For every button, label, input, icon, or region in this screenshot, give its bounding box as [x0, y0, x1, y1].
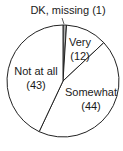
pie-chart: DK, missing (1) Very (12) Somewhat (44) …	[0, 0, 123, 151]
label-very: Very	[69, 36, 92, 48]
label-dk-missing: DK, missing (1)	[30, 4, 105, 16]
dk-leader-line	[62, 18, 64, 24]
pie-slices	[7, 25, 119, 137]
label-very-value: (12)	[70, 50, 90, 62]
label-somewhat: Somewhat	[65, 86, 117, 98]
label-not-at-all-value: (43)	[26, 79, 46, 91]
label-somewhat-value: (44)	[81, 100, 101, 112]
label-not-at-all: Not at all	[14, 65, 57, 77]
